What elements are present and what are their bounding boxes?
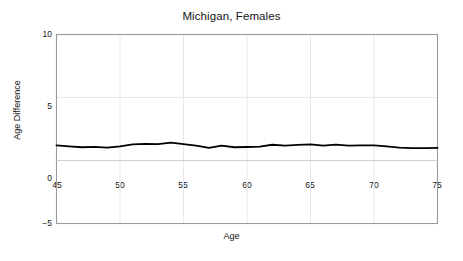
chart-figure: Michigan, Females Age Difference Age 10 … (0, 0, 463, 261)
plot-area (0, 0, 463, 261)
vertical-gridlines (57, 35, 438, 224)
